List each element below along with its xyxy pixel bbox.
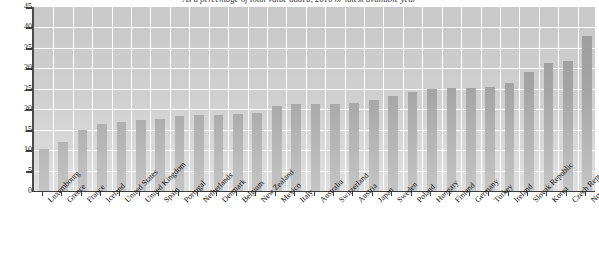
plot-area — [32, 7, 595, 191]
gridline-v — [248, 7, 249, 191]
gridline-v — [364, 7, 365, 191]
bar — [117, 122, 127, 192]
x-tick-label: Iceland — [104, 198, 110, 204]
gridline-v — [150, 7, 151, 191]
bar — [466, 88, 476, 191]
x-tick-mark — [585, 192, 586, 196]
gridline-v — [325, 7, 326, 191]
x-tick-mark — [469, 192, 470, 196]
x-tick-label: Germany — [473, 198, 479, 204]
x-tick-label: Turkey — [492, 198, 498, 204]
x-tick-label: Sweden — [395, 198, 401, 204]
x-tick-mark — [372, 192, 373, 196]
gridline-v — [481, 7, 482, 191]
x-tick-mark — [81, 192, 82, 196]
bar — [78, 130, 88, 191]
x-tick-label: Slovak Republic — [531, 198, 537, 204]
x-tick-label: Mexico — [279, 198, 285, 204]
x-tick-mark — [42, 192, 43, 196]
x-tick-label: Greece — [65, 198, 71, 204]
x-tick-label: Luxembourg — [46, 198, 52, 204]
bar — [485, 87, 495, 191]
bar — [311, 104, 321, 191]
gridline-v — [170, 7, 171, 191]
x-tick-label: Finland — [453, 198, 459, 204]
x-tick-label: Austria — [356, 198, 362, 204]
gridline-h-40 — [34, 27, 595, 28]
x-tick-label: Switzerland — [337, 198, 343, 204]
gridline-v — [442, 7, 443, 191]
x-tick-mark — [275, 192, 276, 196]
gridline-v — [345, 7, 346, 191]
x-tick-label: Poland — [415, 198, 421, 204]
bar — [97, 124, 107, 191]
bar — [427, 89, 437, 191]
gridline-v — [519, 7, 520, 191]
x-tick-label: Belgium — [240, 198, 246, 204]
bar — [175, 116, 185, 191]
bar — [582, 36, 592, 191]
x-tick-mark — [508, 192, 509, 196]
bar — [388, 96, 398, 191]
x-tick-label: Italy — [298, 198, 304, 204]
x-tick-mark — [61, 192, 62, 196]
gridline-v — [131, 7, 132, 191]
x-tick-label: Czech Republic — [570, 198, 576, 204]
x-axis-labels: LuxembourgGreeceFranceIcelandUnited Stat… — [32, 192, 595, 263]
x-tick-mark — [391, 192, 392, 196]
x-tick-mark — [178, 192, 179, 196]
x-tick-label: Norway — [589, 198, 595, 204]
gridline-v — [558, 7, 559, 191]
x-tick-label: Japan — [376, 198, 382, 204]
x-tick-label: United Kingdom — [143, 198, 149, 204]
gridline-v — [539, 7, 540, 191]
bar — [524, 72, 534, 191]
gridline-v — [53, 7, 54, 191]
x-tick-mark — [216, 192, 217, 196]
gridline-v — [286, 7, 287, 191]
x-tick-mark — [197, 192, 198, 196]
x-tick-mark — [430, 192, 431, 196]
gridline-h-30 — [34, 68, 595, 69]
gridline-v — [112, 7, 113, 191]
x-tick-mark — [139, 192, 140, 196]
x-tick-mark — [158, 192, 159, 196]
gridline-h-35 — [34, 48, 595, 49]
x-tick-label: Spain — [162, 198, 168, 204]
x-tick-mark — [100, 192, 101, 196]
bar — [39, 149, 49, 191]
gridline-v — [209, 7, 210, 191]
bar — [291, 104, 301, 191]
x-tick-label: Ireland — [512, 198, 518, 204]
x-tick-label: United States — [123, 198, 129, 204]
gridline-v — [189, 7, 190, 191]
x-tick-mark — [236, 192, 237, 196]
y-axis: 454035302520151050 — [0, 0, 32, 200]
bar — [447, 88, 457, 191]
x-tick-label: Netherlands — [201, 198, 207, 204]
x-tick-mark — [566, 192, 567, 196]
gridline-v — [383, 7, 384, 191]
x-tick-mark — [546, 192, 547, 196]
x-tick-mark — [333, 192, 334, 196]
x-tick-mark — [294, 192, 295, 196]
gridline-v — [73, 7, 74, 191]
gridline-v — [403, 7, 404, 191]
x-tick-label: New Zealand — [259, 198, 265, 204]
x-tick-mark — [119, 192, 120, 196]
gridline-v — [422, 7, 423, 191]
bar — [505, 83, 515, 191]
bar — [408, 92, 418, 191]
gridline-v — [92, 7, 93, 191]
x-tick-mark — [352, 192, 353, 196]
x-tick-label: Portugal — [182, 198, 188, 204]
x-tick-mark — [488, 192, 489, 196]
x-tick-mark — [527, 192, 528, 196]
gridline-v — [500, 7, 501, 191]
x-tick-label: Denmark — [220, 198, 226, 204]
x-tick-label: Korea — [550, 198, 556, 204]
bar — [544, 63, 554, 191]
x-tick-mark — [449, 192, 450, 196]
gridline-v — [267, 7, 268, 191]
y-tick-label-0: 0 — [12, 186, 32, 195]
